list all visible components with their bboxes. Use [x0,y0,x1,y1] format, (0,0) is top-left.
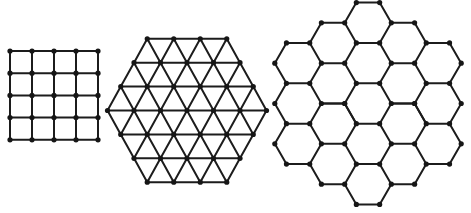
triangle-edge [161,39,174,63]
square-node [29,93,34,98]
triangle-edge [161,87,174,111]
honeycomb-node [447,40,452,45]
honeycomb-edge [345,23,357,43]
triangle-edge [174,87,187,111]
square-node [51,48,56,53]
honeycomb-node [377,202,382,207]
honeycomb-edge [345,63,357,83]
triangle-node [198,84,203,89]
square-node [29,48,34,53]
honeycomb-node [447,161,452,166]
honeycomb-edge [380,104,392,124]
triangle-edge [214,87,227,111]
square-node [73,115,78,120]
honeycomb-node [284,81,289,86]
honeycomb-edge [345,43,357,63]
triangle-node [145,132,150,137]
honeycomb-node [389,182,394,187]
honeycomb-edge [310,104,322,124]
honeycomb-node [377,161,382,166]
honeycomb-edge [415,23,427,43]
honeycomb-node [319,61,324,66]
triangle-node [224,36,229,41]
honeycomb-edge [380,23,392,43]
triangle-node [251,132,256,137]
honeycomb-node [319,141,324,146]
honeycomb-node [377,0,382,5]
honeycomb-edge [345,104,357,124]
triangle-edge [174,158,187,182]
triangle-edge [174,63,187,87]
triangle-edge [121,111,134,135]
square-node [7,48,12,53]
honeycomb-node [342,101,347,106]
honeycomb-edge [415,63,427,83]
triangle-node [145,180,150,185]
square-node [95,137,100,142]
square-node [7,93,12,98]
triangle-edge [121,87,134,111]
triangle-node [118,84,123,89]
honeycomb-node [342,141,347,146]
triangle-edge [214,63,227,87]
honeycomb-edge [345,184,357,204]
honeycomb-node [272,101,277,106]
square-node [73,71,78,76]
honeycomb-node [307,81,312,86]
honeycomb-edge [345,164,357,184]
honeycomb-edge [310,23,322,43]
honeycomb-node [424,161,429,166]
honeycomb-node [377,81,382,86]
square-node [29,137,34,142]
triangle-edge [121,63,134,87]
triangle-node [171,36,176,41]
triangle-edge [200,39,213,63]
triangle-edge [200,87,213,111]
honeycomb-edge [310,83,322,103]
honeycomb-node [284,161,289,166]
triangle-node [198,36,203,41]
triangle-node [237,108,242,113]
triangle-edge [253,87,266,111]
triangle-edge [227,111,240,135]
square-node [29,71,34,76]
triangle-edge [227,39,240,63]
triangle-edge [108,111,121,135]
triangle-edge [227,134,240,158]
honeycomb-edge [415,43,427,63]
honeycomb-node [354,202,359,207]
honeycomb-edge [310,124,322,144]
square-node [95,48,100,53]
triangle-node [184,108,189,113]
triangle-node [211,156,216,161]
honeycomb-edge [380,164,392,184]
triangle-node [211,108,216,113]
square-lattice [7,48,100,142]
triangle-edge [240,111,253,135]
honeycomb-node [459,141,464,146]
honeycomb-edge [345,83,357,103]
honeycomb-node [424,40,429,45]
honeycomb-edge [450,104,462,124]
triangle-edge [187,39,200,63]
square-node [51,93,56,98]
triangle-node [198,132,203,137]
square-node [51,71,56,76]
honeycomb-node [412,141,417,146]
triangle-edge [108,87,121,111]
triangle-node [171,132,176,137]
triangle-node [237,156,242,161]
honeycomb-node [389,61,394,66]
triangle-node [131,108,136,113]
honeycomb-edge [380,3,392,23]
triangle-node [145,84,150,89]
triangle-node [251,84,256,89]
triangle-node [211,60,216,65]
honeycomb-edge [450,63,462,83]
honeycomb-edge [415,144,427,164]
triangle-edge [134,111,147,135]
honeycomb-node [284,40,289,45]
honeycomb-edge [275,43,287,63]
triangle-edge [161,111,174,135]
honeycomb-node [389,20,394,25]
